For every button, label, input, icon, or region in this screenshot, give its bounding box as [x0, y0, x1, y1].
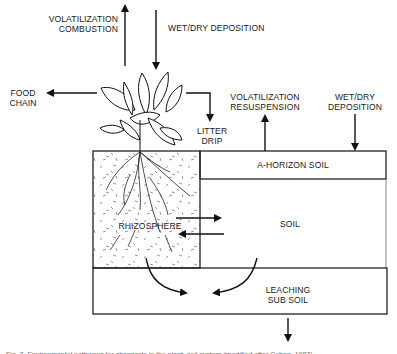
rhizosphere-box	[93, 151, 200, 268]
label-a-horizon-soil: A-HORIZON SOIL	[200, 160, 386, 170]
label-food-chain: FOOD CHAIN	[6, 88, 40, 108]
arrow-soil-to-subsoil	[214, 258, 257, 293]
label-wet-dry-deposition-right: WET/DRY DEPOSITION	[325, 92, 385, 112]
label-rhizosphere: RHIZOSPHERE	[100, 221, 200, 231]
label-litter-drip: LITTER DRIP	[197, 126, 227, 146]
arrow-litter-drip	[186, 93, 210, 120]
label-soil: SOIL	[250, 219, 330, 229]
label-volatilization-combustion: VOLATILIZATION COMBUSTION	[44, 14, 118, 34]
plant-drawing	[100, 72, 182, 152]
figure-caption: Fig. 7. Environmental pathways for chemi…	[6, 349, 396, 354]
sub-soil-box	[93, 268, 387, 314]
label-wet-dry-deposition-top: WET/DRY DEPOSITION	[168, 23, 265, 33]
label-leaching-sub-soil: LEACHING SUB SOIL	[258, 285, 318, 305]
label-volatilization-resuspension: VOLATILIZATION RESUSPENSION	[225, 92, 305, 112]
pathway-diagram	[0, 0, 397, 354]
